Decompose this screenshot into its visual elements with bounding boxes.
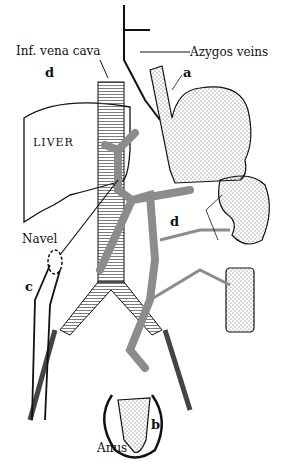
- label-azygos-veins: Azygos veins: [190, 46, 268, 58]
- label-c: c: [25, 280, 33, 293]
- label-d-top: d: [45, 66, 54, 79]
- label-a: a: [183, 66, 191, 79]
- label-inf-vena-cava: Inf. vena cava: [16, 45, 101, 57]
- spleen: [219, 176, 270, 244]
- label-liver: LIVER: [33, 137, 74, 148]
- label-anus: Anus: [97, 442, 127, 454]
- label-d-mid: d: [170, 215, 179, 228]
- label-b: b: [151, 418, 160, 431]
- azygos-vein: [124, 5, 160, 120]
- diagram-canvas: Inf. vena cava Azygos veins a d LIVER d …: [0, 0, 295, 471]
- colon: [226, 268, 254, 332]
- stomach: [150, 66, 251, 183]
- label-navel: Navel: [22, 233, 57, 245]
